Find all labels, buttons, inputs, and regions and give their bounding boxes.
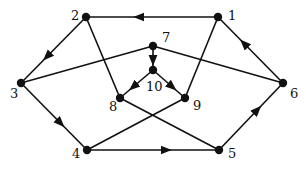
label-layer: 12345678910 — [10, 8, 298, 161]
node-label: 7 — [162, 30, 170, 45]
node-label: 6 — [290, 86, 298, 101]
arrow-icon — [171, 85, 173, 86]
graph-diagram: 12345678910 — [0, 0, 306, 170]
node-2 — [82, 13, 90, 21]
node-1 — [214, 13, 222, 21]
node-7 — [149, 42, 157, 50]
edge-5-6 — [219, 83, 283, 150]
node-label: 10 — [146, 79, 163, 94]
node-6 — [279, 79, 287, 87]
node-label: 5 — [228, 146, 236, 161]
arrow-icon — [59, 122, 60, 123]
edge-1-9 — [185, 17, 218, 98]
node-5 — [215, 146, 223, 154]
node-label: 4 — [72, 146, 80, 161]
arrow-icon — [47, 55, 48, 56]
arrow-icon — [133, 86, 135, 87]
arrow-icon — [256, 110, 257, 111]
node-10 — [149, 66, 157, 74]
arrow-icon — [244, 43, 245, 44]
node-label: 8 — [109, 99, 117, 114]
node-9 — [181, 94, 189, 102]
node-4 — [83, 146, 91, 154]
edge-6-7 — [153, 46, 283, 83]
edge-3-4 — [21, 83, 87, 150]
node-label: 9 — [193, 98, 201, 113]
edge-3-7 — [21, 46, 153, 83]
node-label: 2 — [71, 8, 79, 23]
node-label: 1 — [228, 8, 236, 23]
node-label: 3 — [10, 86, 18, 101]
